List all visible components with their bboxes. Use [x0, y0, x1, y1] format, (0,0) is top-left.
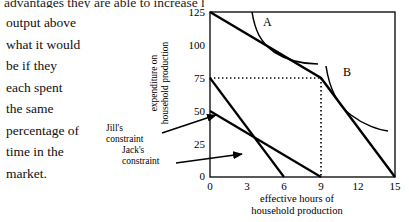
svg-text:0: 0 [207, 180, 213, 192]
svg-text:75: 75 [194, 72, 206, 84]
x-tick-labels: 0 3 6 9 12 15 [207, 180, 401, 192]
production-possibility-chart: 125 100 75 50 25 0 0 3 6 9 12 15 [0, 0, 409, 222]
figure-page: advantages they are able to increase hou… [0, 0, 409, 222]
jill-callout-arrow [162, 115, 216, 133]
svg-text:25: 25 [194, 138, 206, 150]
svg-text:3: 3 [244, 180, 250, 192]
svg-text:12: 12 [353, 180, 364, 192]
svg-text:15: 15 [390, 180, 402, 192]
svg-text:100: 100 [189, 39, 206, 51]
svg-text:6: 6 [281, 180, 287, 192]
svg-text:0: 0 [200, 170, 206, 182]
svg-text:50: 50 [194, 105, 206, 117]
plot-frame [210, 12, 395, 177]
y-tick-labels: 125 100 75 50 25 0 [189, 6, 206, 182]
svg-text:9: 9 [318, 180, 324, 192]
curve-label-b: B [343, 65, 351, 79]
svg-text:125: 125 [189, 6, 206, 18]
curve-label-a: A [263, 15, 272, 29]
